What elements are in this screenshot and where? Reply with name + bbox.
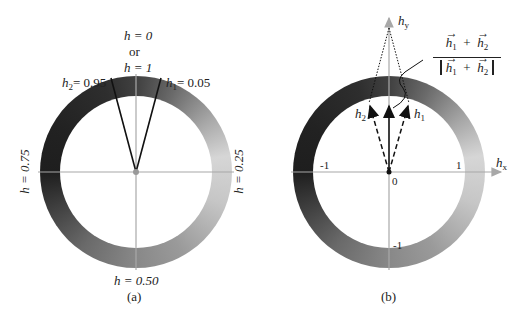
label-hx: hx: [496, 156, 507, 172]
fraction-bar: [433, 57, 501, 58]
fraction-numerator: h1 + h2: [433, 34, 501, 56]
label-h025: h = 0.25: [232, 149, 245, 194]
tick-origin: 0: [392, 176, 398, 187]
label-h050: h = 0.50: [114, 274, 159, 287]
panel-b-vector-sum: hy hx -1 1 0 -1 h2 h1 h1 + h2 h1 + h2 (b…: [263, 0, 527, 312]
label-h0: h = 0: [124, 29, 152, 42]
panel-a-hue-circle: h = 0 or h = 1 h2= 0.95 h1= 0.05 h = 0.2…: [0, 0, 264, 312]
normalized-sum-fraction: h1 + h2 h1 + h2: [433, 34, 501, 81]
tick-neg1-y: -1: [393, 240, 402, 251]
tick-pos1-x: 1: [456, 160, 462, 171]
label-h1-005: h1= 0.05: [166, 76, 210, 92]
label-or: or: [129, 45, 140, 58]
caption-a: (a): [127, 290, 141, 303]
tick-neg1-x: -1: [320, 160, 329, 171]
label-hy: hy: [398, 14, 409, 30]
caption-b: (b): [381, 290, 396, 303]
label-h075: h = 0.75: [18, 149, 31, 194]
label-vec-h2: h2: [355, 107, 366, 123]
label-h1: h = 1: [124, 61, 152, 74]
label-h2-095: h2= 0.95: [62, 76, 106, 92]
label-vec-h1: h1: [414, 107, 425, 123]
fraction-denominator: h1 + h2: [433, 59, 501, 81]
